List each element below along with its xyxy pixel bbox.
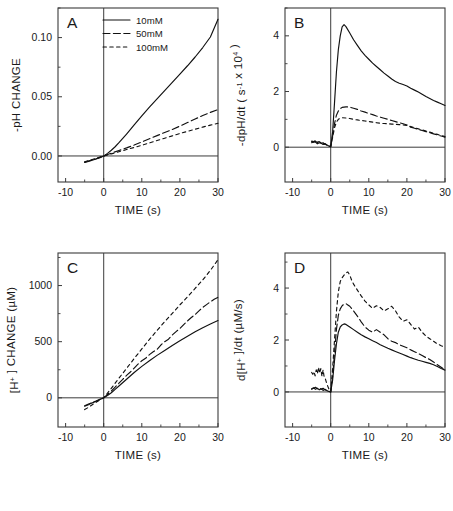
panel-d-plot: -100102030TIME (s)024d[H+ ]/dt (µM/s)D bbox=[227, 245, 453, 490]
panel-letter: C bbox=[67, 259, 78, 276]
plot-frame bbox=[285, 8, 445, 182]
y-axis-label: -dpH/dt ( s-1 x 104 ) bbox=[228, 44, 247, 146]
x-tick-label: 0 bbox=[328, 431, 334, 443]
series-line-100mM bbox=[312, 272, 445, 392]
y-tick-label: 1000 bbox=[29, 279, 53, 291]
panel-a: -100102030TIME (s)0.000.050.10-pH CHANGE… bbox=[0, 0, 226, 245]
x-tick-label: 10 bbox=[136, 431, 148, 443]
x-tick-label: -10 bbox=[285, 431, 300, 443]
x-tick-label: -10 bbox=[285, 186, 300, 198]
plot-frame bbox=[285, 253, 445, 427]
y-tick-label: 2 bbox=[273, 85, 279, 97]
y-axis-label: [H+ ] CHANGE (µM) bbox=[5, 287, 20, 394]
series-line-50mM bbox=[85, 297, 218, 406]
x-tick-label: 0 bbox=[328, 186, 334, 198]
panel-c: -100102030TIME (s)05001000[H+ ] CHANGE (… bbox=[0, 245, 226, 490]
x-axis-label: TIME (s) bbox=[342, 204, 388, 216]
y-tick-label: 2 bbox=[273, 334, 279, 346]
plot-frame bbox=[58, 253, 218, 427]
series-line-10mM bbox=[85, 321, 218, 406]
y-tick-label: 0.05 bbox=[32, 90, 53, 102]
x-tick-label: 0 bbox=[101, 186, 107, 198]
panel-letter: B bbox=[294, 14, 304, 31]
y-tick-label: 500 bbox=[34, 335, 52, 347]
series-line-10mM bbox=[312, 25, 445, 147]
panel-letter: A bbox=[67, 14, 78, 31]
caption-strip: Fig. 1. (A) Initial pH change, (B) rate … bbox=[0, 494, 453, 511]
y-tick-label: 0 bbox=[273, 141, 279, 153]
legend-label-100mM: 100mM bbox=[136, 42, 168, 53]
x-tick-label: 10 bbox=[363, 186, 375, 198]
x-axis-label: TIME (s) bbox=[115, 449, 161, 461]
y-axis-label: -pH CHANGE bbox=[10, 58, 22, 132]
x-tick-label: -10 bbox=[58, 431, 73, 443]
x-axis-label: TIME (s) bbox=[115, 204, 161, 216]
x-tick-label: 20 bbox=[174, 431, 186, 443]
x-axis-label: TIME (s) bbox=[342, 449, 388, 461]
panel-c-plot: -100102030TIME (s)05001000[H+ ] CHANGE (… bbox=[0, 245, 226, 490]
series-line-100mM bbox=[85, 260, 218, 410]
y-tick-label: 0 bbox=[46, 391, 52, 403]
panel-d: -100102030TIME (s)024d[H+ ]/dt (µM/s)D bbox=[227, 245, 453, 490]
x-tick-label: 20 bbox=[401, 431, 413, 443]
x-tick-label: 10 bbox=[363, 431, 375, 443]
y-tick-label: 0.00 bbox=[32, 150, 53, 162]
legend: 10mM50mM100mM bbox=[103, 15, 168, 53]
y-tick-label: 0 bbox=[273, 386, 279, 398]
y-tick-label: 4 bbox=[273, 29, 279, 41]
series-line-50mM bbox=[85, 110, 218, 163]
panel-letter: D bbox=[294, 259, 305, 276]
panel-a-plot: -100102030TIME (s)0.000.050.10-pH CHANGE… bbox=[0, 0, 226, 245]
x-tick-label: 10 bbox=[136, 186, 148, 198]
legend-label-10mM: 10mM bbox=[136, 15, 163, 26]
x-tick-label: 30 bbox=[439, 186, 451, 198]
panel-b-plot: -100102030TIME (s)024-dpH/dt ( s-1 x 104… bbox=[227, 0, 453, 245]
x-tick-label: 30 bbox=[212, 186, 224, 198]
y-axis-label: d[H+ ]/dt (µM/s) bbox=[232, 299, 247, 381]
x-tick-label: 30 bbox=[212, 431, 224, 443]
y-tick-label: 4 bbox=[273, 282, 279, 294]
panel-b: -100102030TIME (s)024-dpH/dt ( s-1 x 104… bbox=[227, 0, 453, 245]
x-tick-label: 20 bbox=[401, 186, 413, 198]
panel-grid: -100102030TIME (s)0.000.050.10-pH CHANGE… bbox=[0, 0, 453, 490]
x-tick-label: 0 bbox=[101, 431, 107, 443]
figure-root: -100102030TIME (s)0.000.050.10-pH CHANGE… bbox=[0, 0, 453, 511]
x-tick-label: -10 bbox=[58, 186, 73, 198]
y-tick-label: 0.10 bbox=[32, 31, 53, 43]
legend-label-50mM: 50mM bbox=[136, 28, 163, 39]
x-tick-label: 20 bbox=[174, 186, 186, 198]
x-tick-label: 30 bbox=[439, 431, 451, 443]
